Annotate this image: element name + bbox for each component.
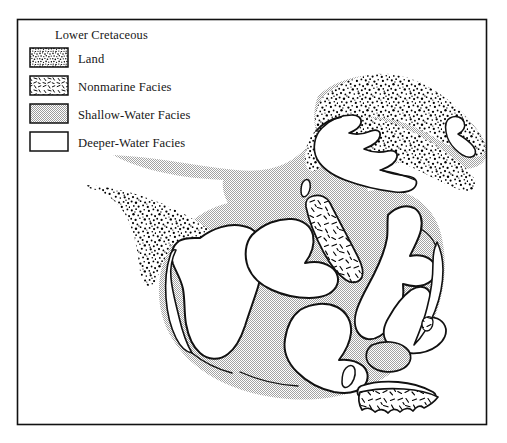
shallow-water-island-south [366,342,410,372]
legend-swatch-nonmarine [30,76,68,95]
facies-map-figure: Lower Cretaceous Land Nonmarine Facies S… [0,0,507,443]
legend-label-shallow-water: Shallow-Water Facies [78,108,191,122]
legend-swatch-land [30,48,68,67]
legend-swatch-shallow-water [30,104,68,123]
legend-label-land: Land [78,52,105,66]
legend-swatch-deeper-water [30,132,68,151]
east-nonmarine-speck [422,317,433,331]
legend-title: Lower Cretaceous [55,28,148,42]
legend-label-nonmarine: Nonmarine Facies [78,80,172,94]
legend-label-deeper-water: Deeper-Water Facies [78,136,185,150]
